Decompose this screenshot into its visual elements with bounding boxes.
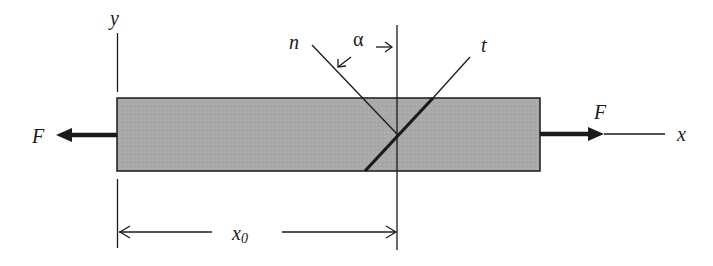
dimension-x0-main: x [231, 222, 241, 244]
force-left-label: F [31, 125, 45, 147]
angle-alpha-label: α [353, 28, 364, 50]
force-right-arrow [540, 127, 604, 141]
y-axis-label: y [108, 7, 119, 30]
tangent-label: t [481, 34, 487, 56]
tangent-line [433, 57, 470, 98]
force-left-arrow [56, 128, 117, 142]
dimension-x0-subscript: 0 [241, 231, 248, 246]
normal-label: n [289, 31, 299, 53]
force-right-label: F [593, 101, 607, 123]
bar [117, 98, 540, 171]
x-axis-label: x [676, 123, 686, 145]
dimension-x0-label: x0 [231, 222, 248, 246]
diagram-canvas: y F F x n t α x0 [0, 0, 713, 266]
dimension-x0 [119, 226, 396, 238]
angle-alpha-marker [338, 42, 392, 67]
